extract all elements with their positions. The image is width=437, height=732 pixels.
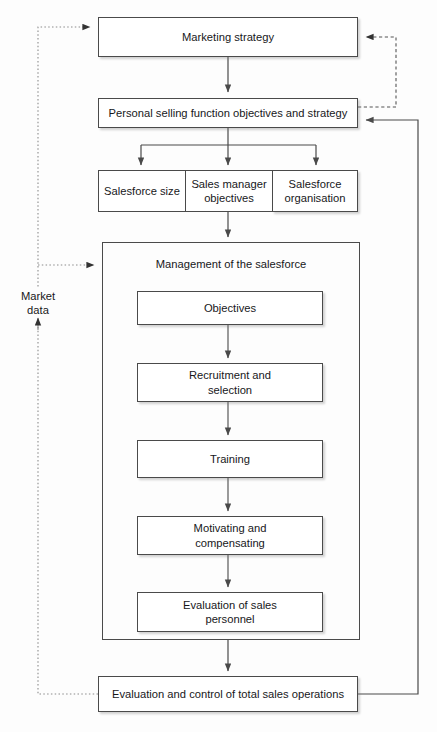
node-management-container-label: Management of the salesforce <box>102 258 360 270</box>
node-evaluation-of-sales-personnel[interactable]: Evaluation of sales personnel <box>137 592 323 632</box>
node-salesforce-size-label: Salesforce size <box>101 184 183 198</box>
label-market-data: Market data <box>9 289 67 317</box>
node-salesforce-organisation[interactable]: Salesforce organisation <box>272 170 358 212</box>
node-sales-manager-objectives-label: Sales manager objectives <box>186 177 272 206</box>
node-salesforce-organisation-label: Salesforce organisation <box>273 177 357 206</box>
node-training[interactable]: Training <box>137 440 323 478</box>
diagram-canvas: Marketing strategy Personal selling func… <box>0 0 437 732</box>
node-training-label: Training <box>207 452 253 466</box>
node-recruitment-and-selection-label: Recruitment and selection <box>167 368 293 397</box>
node-evaluation-of-sales-personnel-label: Evaluation of sales personnel <box>170 598 291 627</box>
node-sales-manager-objectives[interactable]: Sales manager objectives <box>185 170 272 212</box>
node-objectives[interactable]: Objectives <box>137 291 323 325</box>
node-objectives-label: Objectives <box>201 301 259 315</box>
node-marketing-strategy[interactable]: Marketing strategy <box>98 17 358 57</box>
node-motivating-and-compensating-label: Motivating and compensating <box>170 521 291 550</box>
node-personal-selling[interactable]: Personal selling function objectives and… <box>98 98 358 128</box>
node-evaluation-and-control-label: Evaluation and control of total sales op… <box>109 687 347 701</box>
node-marketing-strategy-label: Marketing strategy <box>179 30 277 44</box>
node-recruitment-and-selection[interactable]: Recruitment and selection <box>137 363 323 402</box>
market-data-line-to-marketing-strategy <box>38 27 98 694</box>
node-evaluation-and-control[interactable]: Evaluation and control of total sales op… <box>98 676 358 712</box>
node-salesforce-size[interactable]: Salesforce size <box>98 170 185 212</box>
node-personal-selling-label: Personal selling function objectives and… <box>106 106 351 120</box>
feedback-evaluation-to-personal-selling <box>358 120 418 694</box>
node-motivating-and-compensating[interactable]: Motivating and compensating <box>137 516 323 555</box>
feedback-personal-selling-to-marketing-strategy <box>358 37 396 107</box>
